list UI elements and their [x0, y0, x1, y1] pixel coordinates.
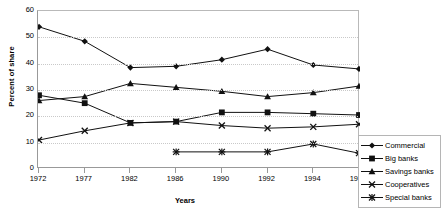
x-tick-label: 1992: [247, 174, 287, 183]
legend-item-cooperatives[interactable]: Cooperatives: [361, 178, 438, 191]
data-point-diamond: [356, 66, 360, 72]
plot-area: [37, 10, 359, 168]
y-axis-tick-labels: 0102030405060: [10, 0, 34, 178]
x-tick-label: 1977: [64, 174, 104, 183]
data-point-square: [82, 100, 88, 106]
data-point-square: [38, 92, 42, 98]
series-line: [39, 27, 359, 69]
data-point-diamond: [264, 46, 270, 52]
y-tick-label: 60: [12, 6, 34, 14]
data-point-asterisk: [264, 148, 271, 155]
data-point-triangle: [369, 168, 376, 174]
x-tick-label: 1994: [292, 174, 332, 183]
legend-marker-glyph: [361, 179, 383, 190]
x-tick-label: 1990: [201, 174, 241, 183]
data-point-diamond: [38, 24, 42, 30]
data-point-diamond: [369, 142, 375, 148]
x-tick-mark: [175, 168, 176, 173]
data-point-square: [219, 109, 225, 115]
x-tick-label: 1982: [109, 174, 149, 183]
chart-legend: CommercialBig banksSavings banksCooperat…: [358, 135, 441, 208]
legend-item-label: Savings banks: [383, 168, 434, 176]
y-tick-label: 50: [12, 32, 34, 40]
data-point-square: [369, 156, 375, 162]
legend-item-big-banks[interactable]: Big banks: [361, 152, 438, 165]
x-tick-mark: [221, 168, 222, 173]
asterisk-marker-icon: [361, 192, 383, 203]
legend-marker-glyph: [361, 153, 383, 164]
data-point-diamond: [82, 38, 88, 44]
x-tick-mark: [129, 168, 130, 173]
gridline: [38, 143, 358, 144]
diamond-marker-icon: [361, 140, 383, 151]
x-tick-label: 1986: [155, 174, 195, 183]
legend-item-label: Cooperatives: [383, 181, 429, 189]
gridline: [38, 37, 358, 38]
legend-item-special-banks[interactable]: Special banks: [361, 191, 438, 204]
legend-item-label: Special banks: [383, 194, 432, 202]
line-chart: Percent of share 0102030405060 197219771…: [0, 0, 442, 214]
data-point-triangle: [356, 83, 360, 89]
x-tick-label: 1972: [18, 174, 58, 183]
triangle-marker-icon: [361, 166, 383, 177]
gridline: [38, 90, 358, 91]
legend-item-savings-banks[interactable]: Savings banks: [361, 165, 438, 178]
x-tick-mark: [312, 168, 313, 173]
y-tick-label: 30: [12, 85, 34, 93]
data-point-asterisk: [218, 148, 225, 155]
legend-item-label: Big banks: [383, 155, 418, 163]
y-tick-label: 0: [12, 164, 34, 172]
data-point-square: [265, 109, 271, 115]
x-tick-mark: [84, 168, 85, 173]
x-tick-mark: [38, 168, 39, 173]
data-point-asterisk: [173, 148, 180, 155]
legend-marker-glyph: [361, 140, 383, 151]
data-point-diamond: [219, 57, 225, 63]
square-marker-icon: [361, 153, 383, 164]
data-point-triangle: [127, 80, 134, 86]
data-point-x: [369, 182, 375, 188]
series-line: [39, 95, 359, 123]
gridline: [38, 64, 358, 65]
data-point-diamond: [127, 65, 133, 71]
y-tick-label: 40: [12, 59, 34, 67]
legend-item-label: Commercial: [383, 142, 425, 150]
data-point-asterisk: [369, 194, 376, 201]
x-tick-mark: [267, 168, 268, 173]
x-axis-title: Years: [130, 196, 240, 205]
legend-item-commercial[interactable]: Commercial: [361, 139, 438, 152]
gridline: [38, 116, 358, 117]
y-tick-label: 10: [12, 138, 34, 146]
x-axis-tick-labels: 19721977198219861990199219941996: [37, 174, 359, 188]
y-tick-label: 20: [12, 111, 34, 119]
legend-marker-glyph: [361, 166, 383, 177]
legend-marker-glyph: [361, 192, 383, 203]
data-point-asterisk: [310, 141, 317, 148]
x-marker-icon: [361, 179, 383, 190]
